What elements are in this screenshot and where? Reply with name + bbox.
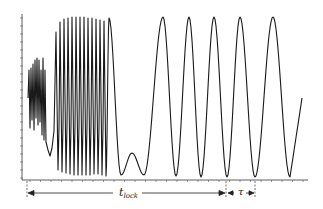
lock-time-subscript: lock — [123, 192, 138, 200]
lock-time-label: tlock — [117, 187, 140, 200]
arrowhead-right-icon — [219, 191, 225, 196]
y-axis-ticks — [20, 18, 23, 178]
arrowhead-left-icon — [28, 191, 34, 196]
waveform-line — [28, 17, 302, 177]
arrowhead-right-icon — [249, 191, 254, 195]
period-label: τ — [236, 187, 246, 197]
time-markers — [27, 181, 255, 198]
arrowhead-left-icon — [228, 191, 233, 195]
waveform-figure — [0, 0, 323, 209]
